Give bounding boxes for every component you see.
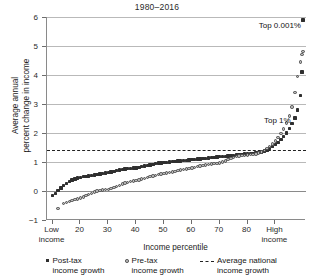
chart-legend: Post-taxincome growthPre-taxincome growt… bbox=[0, 256, 314, 280]
x-tick-label: Lowincome bbox=[39, 225, 65, 244]
x-tick-label: 70 bbox=[214, 225, 223, 235]
data-point bbox=[290, 122, 293, 125]
y-tick-label: 0 bbox=[8, 187, 38, 196]
x-tick bbox=[219, 220, 220, 224]
data-point bbox=[296, 75, 299, 78]
legend-label: Pre-taxincome growth bbox=[132, 256, 184, 275]
y-axis: Average annualpercent change in income −… bbox=[0, 17, 46, 221]
x-tick-label: 80 bbox=[242, 225, 251, 235]
y-tick-label: 1 bbox=[8, 158, 38, 167]
gridline bbox=[47, 133, 306, 134]
x-tick-label: 60 bbox=[186, 225, 195, 235]
y-tick-label: 4 bbox=[8, 71, 38, 80]
gridline bbox=[47, 75, 306, 76]
data-point bbox=[293, 116, 296, 119]
data-point bbox=[279, 132, 282, 135]
gridline bbox=[47, 46, 306, 47]
y-tick-label: 2 bbox=[8, 129, 38, 138]
x-tick bbox=[135, 220, 136, 224]
data-point bbox=[301, 50, 304, 53]
y-tick-label: 6 bbox=[8, 13, 38, 22]
data-point bbox=[271, 142, 274, 145]
x-tick bbox=[274, 220, 275, 224]
chart-figure: 1980–2016 Average annualpercent change i… bbox=[0, 0, 314, 280]
legend-item: Pre-taxincome growth bbox=[125, 256, 184, 275]
legend-item: Post-taxincome growth bbox=[46, 256, 104, 275]
x-tick-label: 20 bbox=[75, 225, 84, 235]
x-tick-label: 30 bbox=[103, 225, 112, 235]
filled-square-icon bbox=[46, 259, 49, 262]
y-tick-label: 5 bbox=[8, 42, 38, 51]
data-point bbox=[300, 53, 303, 56]
legend-label: Average nationalincome growth bbox=[217, 256, 277, 275]
dashed-line-icon bbox=[200, 261, 214, 262]
data-point bbox=[282, 127, 285, 130]
data-point bbox=[299, 94, 302, 97]
chart-title: 1980–2016 bbox=[0, 2, 314, 12]
x-tick bbox=[191, 220, 192, 224]
x-tick bbox=[107, 220, 108, 224]
open-circle-icon bbox=[125, 259, 129, 263]
gridline bbox=[47, 17, 306, 18]
x-tick bbox=[247, 220, 248, 224]
data-point bbox=[299, 60, 302, 63]
legend-label: Post-taxincome growth bbox=[52, 256, 104, 275]
x-tick-label: 40 bbox=[131, 225, 140, 235]
zero-line bbox=[47, 191, 306, 192]
y-tick-label: −1 bbox=[8, 216, 38, 225]
data-point bbox=[285, 131, 288, 134]
x-tick bbox=[163, 220, 164, 224]
gridline bbox=[47, 104, 306, 105]
data-point bbox=[296, 108, 299, 111]
x-axis-title: Income percentile bbox=[46, 243, 305, 252]
plot-area: Top 0.001%Top 1% bbox=[46, 17, 305, 220]
data-point bbox=[56, 207, 59, 210]
data-point bbox=[274, 139, 277, 142]
x-tick bbox=[52, 220, 53, 224]
data-point bbox=[288, 127, 291, 130]
data-point bbox=[300, 70, 303, 73]
x-tick-label: 50 bbox=[159, 225, 168, 235]
y-tick-label: 3 bbox=[8, 100, 38, 109]
x-tick-label: Highincome bbox=[261, 225, 287, 244]
annotation-top-1: Top 1% bbox=[264, 115, 291, 124]
annotation-top-0-001: Top 0.001% bbox=[259, 21, 301, 30]
data-point bbox=[54, 192, 57, 195]
data-point bbox=[301, 18, 304, 21]
x-tick bbox=[79, 220, 80, 224]
data-point bbox=[290, 105, 293, 108]
data-point bbox=[293, 91, 296, 94]
data-point bbox=[282, 135, 285, 138]
legend-item: Average nationalincome growth bbox=[200, 256, 277, 275]
